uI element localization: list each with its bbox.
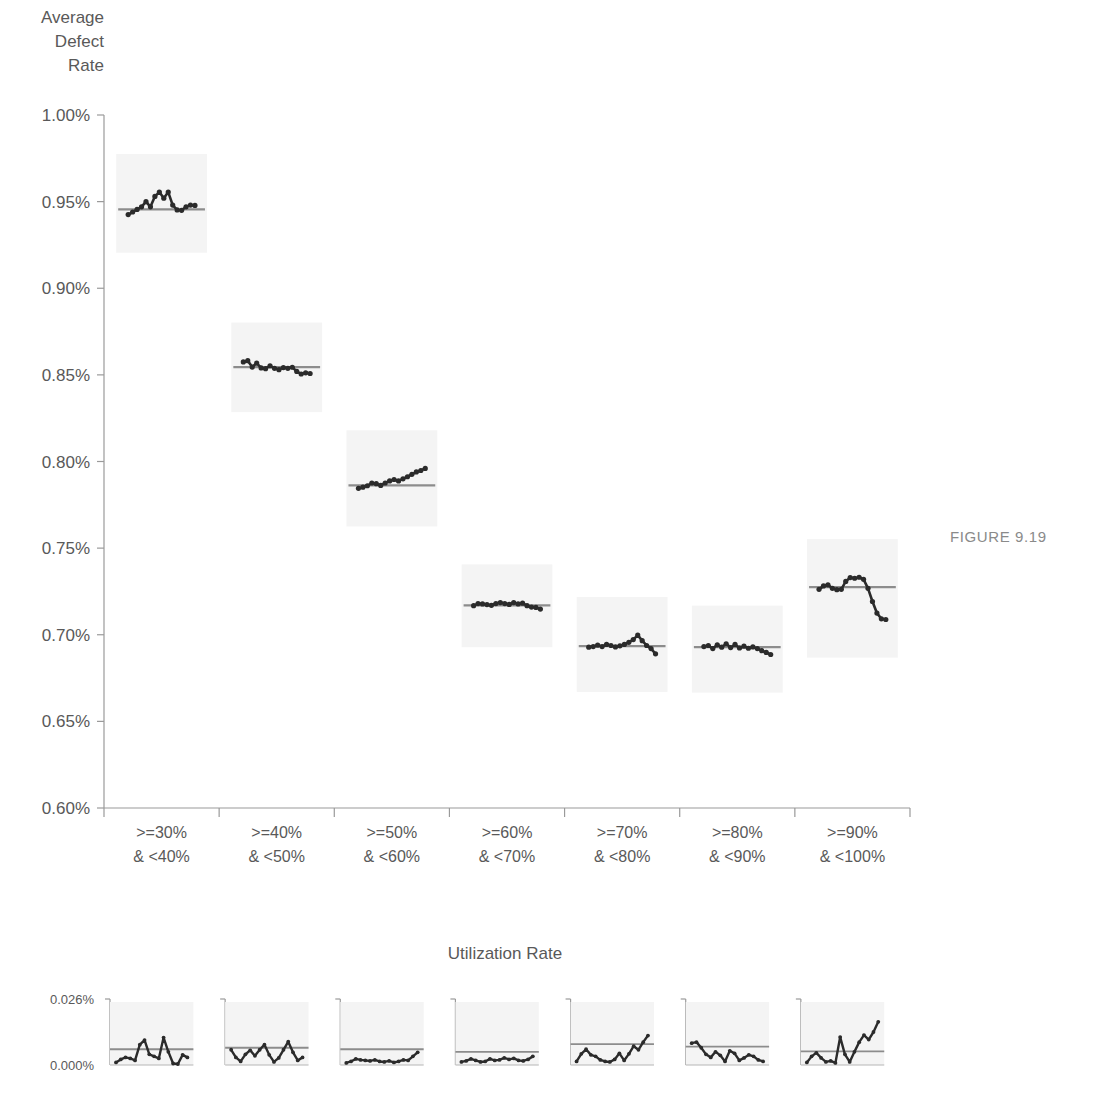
residual-data-point (301, 1055, 305, 1059)
chart-panel-group: >=90%& <100% (807, 539, 898, 865)
residual-panel-group (335, 999, 423, 1065)
panel-data-point (883, 617, 888, 622)
panel-data-point (276, 367, 281, 372)
residual-data-point (598, 1058, 602, 1062)
panel-data-point (653, 651, 658, 656)
residual-data-point (406, 1059, 410, 1063)
residual-data-point (714, 1050, 718, 1054)
chart-panel-group: >=50%& <60% (346, 430, 437, 865)
residual-data-point (819, 1056, 823, 1060)
panel-data-point (471, 603, 476, 608)
panel-data-point (245, 358, 250, 363)
panel-data-point (139, 204, 144, 209)
residual-data-point (876, 1020, 880, 1024)
panel-data-point (861, 577, 866, 582)
residual-data-point (138, 1043, 142, 1047)
residual-data-point (589, 1053, 593, 1057)
panel-background-band (807, 539, 898, 658)
residual-data-point (282, 1048, 286, 1052)
chart-panel-group: >=40%& <50% (231, 323, 322, 865)
panel-data-point (400, 476, 405, 481)
residual-chart-svg: 0.026%0.000% (0, 985, 930, 1095)
residual-data-point (637, 1048, 641, 1052)
panel-data-point (759, 648, 764, 653)
panel-data-point (272, 366, 277, 371)
residual-data-point (857, 1040, 861, 1044)
panel-data-point (737, 645, 742, 650)
panel-data-point (192, 203, 197, 208)
panel-data-point (374, 481, 379, 486)
y-tick-label: 0.85% (42, 366, 90, 385)
residual-data-point (613, 1058, 617, 1062)
panel-data-point (511, 600, 516, 605)
y-tick-label: 0.60% (42, 799, 90, 818)
x-tick-label-line2: & <60% (364, 848, 420, 865)
residual-data-point (349, 1060, 353, 1064)
residual-data-point (641, 1040, 645, 1044)
panel-data-point (764, 650, 769, 655)
residual-data-point (502, 1056, 506, 1060)
residual-data-point (277, 1056, 281, 1060)
panel-data-point (475, 601, 480, 606)
x-tick-label-line2: & <50% (248, 848, 304, 865)
residual-data-point (848, 1060, 852, 1064)
figure-caption: FIGURE 9.19 (950, 528, 1047, 545)
residual-data-point (728, 1049, 732, 1053)
panel-data-point (405, 474, 410, 479)
residual-data-point (512, 1057, 516, 1061)
residual-data-point (267, 1053, 271, 1057)
panel-data-point (768, 652, 773, 657)
panel-data-point (170, 202, 175, 207)
panel-data-point (250, 364, 255, 369)
residual-data-point (483, 1060, 487, 1064)
x-tick-label-line1: >=40% (251, 824, 302, 841)
residual-data-point (814, 1051, 818, 1055)
residual-data-point (176, 1062, 180, 1066)
panel-data-point (383, 480, 388, 485)
residual-data-point (401, 1058, 405, 1062)
chart-panel-group: >=30%& <40% (116, 154, 207, 865)
residual-data-point (521, 1059, 525, 1063)
residual-data-point (185, 1055, 189, 1059)
residual-data-point (286, 1040, 290, 1044)
panel-data-point (396, 478, 401, 483)
residual-data-point (608, 1060, 612, 1064)
x-tick-label-line1: >=50% (366, 824, 417, 841)
panel-data-point (259, 365, 264, 370)
panel-data-point (378, 483, 383, 488)
residual-data-point (416, 1050, 420, 1054)
residual-data-point (397, 1060, 401, 1064)
x-tick-label-line1: >=60% (482, 824, 533, 841)
residual-data-point (843, 1052, 847, 1056)
residual-data-point (761, 1060, 765, 1064)
panel-data-point (391, 477, 396, 482)
panel-data-point (586, 645, 591, 650)
panel-data-point (267, 363, 272, 368)
residual-data-point (152, 1054, 156, 1058)
residual-panel-group (566, 999, 654, 1065)
residual-data-point (507, 1058, 511, 1062)
residual-data-point (128, 1057, 132, 1061)
residual-panel-group (220, 999, 308, 1065)
residual-data-point (133, 1059, 137, 1063)
residual-y-tick-top: 0.026% (50, 992, 95, 1007)
y-tick-label: 0.65% (42, 712, 90, 731)
chart-panel-group: >=60%& <70% (462, 564, 553, 865)
residual-data-point (579, 1052, 583, 1056)
residual-data-point (234, 1055, 238, 1059)
residual-panel-group (450, 999, 538, 1065)
residual-data-point (834, 1061, 838, 1065)
residual-data-point (411, 1054, 415, 1058)
panel-data-point (294, 369, 299, 374)
residual-y-tick-bottom: 0.000% (50, 1058, 95, 1073)
panel-data-point (879, 616, 884, 621)
residual-data-point (810, 1054, 814, 1058)
panel-data-point (852, 576, 857, 581)
residual-panel-group (105, 999, 193, 1066)
panel-data-point (755, 646, 760, 651)
panel-data-point (157, 189, 162, 194)
panel-data-point (608, 643, 613, 648)
panel-data-point (484, 602, 489, 607)
x-tick-label-line1: >=90% (827, 824, 878, 841)
residual-data-point (646, 1034, 650, 1038)
